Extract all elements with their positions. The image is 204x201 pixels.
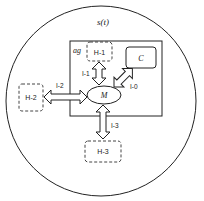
i1-label: I-1 [82, 70, 90, 77]
i2-label: I-2 [56, 82, 64, 89]
i3-double-arrow [96, 105, 110, 139]
i2-double-arrow [44, 90, 87, 104]
node-h1: H-1 [87, 42, 112, 61]
h3-label: H-3 [97, 148, 108, 155]
diagram-canvas: s(t) ag H-1 C I-1 I-0 I-2 M H-2 [0, 0, 204, 201]
environment-label: s(t) [97, 17, 109, 27]
h1-label: H-1 [94, 49, 105, 56]
node-h2: H-2 [19, 84, 43, 111]
h2-label: H-2 [25, 94, 36, 101]
i1-double-arrow [92, 62, 106, 85]
m-label: M [100, 91, 109, 100]
i0-label: I-0 [130, 83, 138, 90]
node-h3: H-3 [85, 141, 121, 162]
edge-i2: I-2 [44, 82, 87, 104]
node-m: M [87, 86, 121, 104]
agent-label: ag [73, 46, 81, 55]
i3-label: I-3 [111, 122, 119, 129]
edge-i3: I-3 [96, 105, 119, 139]
edge-i1: I-1 [82, 62, 106, 85]
c-label: C [138, 54, 144, 63]
node-c: C [126, 47, 156, 68]
